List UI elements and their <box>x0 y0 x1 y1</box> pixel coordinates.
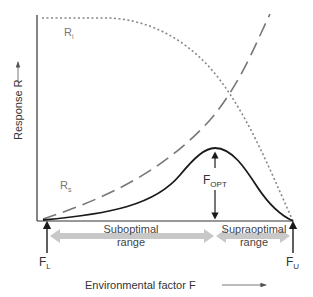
f-upper-label: FU <box>286 255 299 271</box>
x-axis-label: Environmental factor F <box>85 279 196 291</box>
supraoptimal-label-line2: range <box>240 236 268 248</box>
f-lower-label: FL <box>39 255 51 271</box>
rs-label: Rs <box>60 179 72 193</box>
suboptimal-label-line1: Suboptimal <box>103 223 158 235</box>
response-diagram: Ri Rs FOPT Suboptimal range Supraoptimal… <box>0 0 313 297</box>
rs-curve <box>43 14 270 219</box>
ri-label: Ri <box>64 26 74 40</box>
y-axis-label: Response R <box>12 79 24 140</box>
ri-curve <box>42 18 293 221</box>
f-opt-label: FOPT <box>203 173 227 189</box>
suboptimal-label-line2: range <box>117 236 145 248</box>
supraoptimal-label-line1: Supraoptimal <box>222 223 287 235</box>
